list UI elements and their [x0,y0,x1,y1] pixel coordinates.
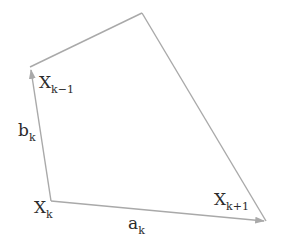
quadrilateral-diagram: Xk−1 bk Xk ak Xk+1 [0,0,281,247]
vector-label-bk: bk [18,120,36,144]
vector-label-ak: ak [128,213,145,237]
vertex-label-xk+1: Xk+1 [214,189,249,213]
vertex-label-xk-1: Xk−1 [39,72,74,96]
edge-xk-1-to-top [30,13,142,67]
edge-top-to-xk+1 [142,13,266,221]
